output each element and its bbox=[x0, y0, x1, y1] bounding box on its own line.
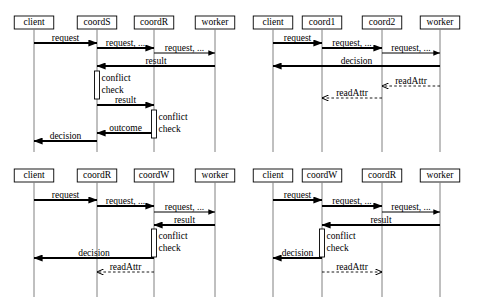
sequence-diagram-grid: clientcoordScoordRworkerrequestrequest, … bbox=[0, 0, 479, 306]
message-label-panel-top-left-0: request bbox=[52, 33, 80, 43]
participant-label-panel-bottom-right-coordW: coordW bbox=[307, 170, 338, 180]
message-label-panel-top-left-5: outcome bbox=[109, 123, 142, 133]
activation-bar-panel-top-left-0[interactable] bbox=[95, 71, 100, 99]
message-label-panel-bottom-left-1: request, ... bbox=[106, 196, 145, 206]
message-label-panel-bottom-right-2: request, ... bbox=[391, 202, 430, 212]
participant-label-panel-top-right-coord2: coord2 bbox=[369, 17, 396, 27]
message-label-panel-bottom-left-3: result bbox=[174, 215, 195, 225]
participant-label-panel-bottom-right-coordR: coordR bbox=[368, 170, 397, 180]
participant-label-panel-bottom-left-worker: worker bbox=[202, 170, 230, 180]
message-label-panel-top-left-6: decision bbox=[50, 131, 82, 141]
participant-label-panel-top-right-client: client bbox=[262, 17, 283, 27]
message-label-panel-bottom-left-0: request bbox=[52, 190, 80, 200]
activation-bar-panel-bottom-left-0[interactable] bbox=[152, 229, 157, 257]
activation-bar-panel-bottom-right-0[interactable] bbox=[320, 229, 325, 257]
message-label-panel-top-left-1: request, ... bbox=[106, 38, 145, 48]
message-label-panel-bottom-left-4: decision bbox=[78, 248, 110, 258]
message-label-panel-top-right-3: decision bbox=[341, 56, 373, 66]
message-label-panel-bottom-right-5: readAttr bbox=[336, 262, 368, 272]
message-label-panel-bottom-right-1: request, ... bbox=[332, 196, 371, 206]
message-label-panel-top-left-2: request, ... bbox=[165, 43, 204, 53]
message-label-panel-bottom-right-0: request bbox=[284, 190, 312, 200]
message-label-panel-bottom-left-2: request, ... bbox=[165, 202, 204, 212]
activation-note-panel-bottom-left-0-0: conflict bbox=[159, 231, 188, 241]
participant-label-panel-top-right-worker: worker bbox=[427, 17, 455, 27]
activation-note-panel-bottom-left-0-1: check bbox=[159, 243, 181, 253]
participant-label-panel-top-left-worker: worker bbox=[202, 17, 230, 27]
participant-label-panel-top-right-coord1: coord1 bbox=[309, 17, 336, 27]
participant-label-panel-bottom-left-coordR: coordR bbox=[83, 170, 112, 180]
activation-note-panel-bottom-right-0-0: conflict bbox=[327, 231, 356, 241]
message-label-panel-top-left-3: result bbox=[145, 56, 166, 66]
participant-label-panel-bottom-right-client: client bbox=[262, 170, 283, 180]
message-label-panel-top-right-0: request bbox=[284, 33, 312, 43]
message-label-panel-top-right-1: request, ... bbox=[332, 38, 371, 48]
message-label-panel-top-right-5: readAttr bbox=[336, 88, 368, 98]
activation-note-panel-bottom-right-0-1: check bbox=[327, 243, 349, 253]
message-label-panel-bottom-right-3: result bbox=[370, 215, 391, 225]
participant-label-panel-bottom-left-client: client bbox=[23, 170, 44, 180]
activation-note-panel-top-left-0-0: conflict bbox=[102, 73, 131, 83]
message-label-panel-bottom-left-5: readAttr bbox=[110, 262, 142, 272]
message-label-panel-top-right-2: request, ... bbox=[391, 43, 430, 53]
message-label-panel-bottom-right-4: decision bbox=[282, 248, 314, 258]
activation-bar-panel-top-left-1[interactable] bbox=[152, 110, 157, 138]
participant-label-panel-top-left-coordR: coordR bbox=[140, 17, 169, 27]
activation-note-panel-top-left-0-1: check bbox=[102, 85, 124, 95]
message-label-panel-top-right-4: readAttr bbox=[395, 76, 427, 86]
participant-label-panel-top-left-client: client bbox=[23, 17, 44, 27]
activation-note-panel-top-left-1-1: check bbox=[159, 124, 181, 134]
participant-label-panel-bottom-right-worker: worker bbox=[427, 170, 455, 180]
activation-note-panel-top-left-1-0: conflict bbox=[159, 112, 188, 122]
participant-label-panel-bottom-left-coordW: coordW bbox=[139, 170, 170, 180]
diagram-canvas: clientcoordScoordRworkerrequestrequest, … bbox=[0, 0, 479, 306]
participant-label-panel-top-left-coordS: coordS bbox=[84, 17, 111, 27]
message-label-panel-top-left-4: result bbox=[115, 95, 136, 105]
